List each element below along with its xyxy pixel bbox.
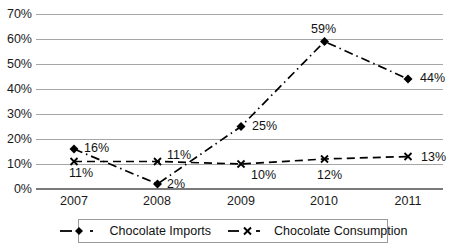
marker-diamond bbox=[70, 145, 79, 154]
chart-plot-area bbox=[0, 0, 461, 250]
data-label-imports-2011: 44% bbox=[420, 71, 445, 85]
chart-container: 70% 60% 50% 40% 30% 20% 10% 0% 2007 2008… bbox=[0, 0, 461, 250]
legend-item-chocolate-imports[interactable]: Chocolate Imports bbox=[59, 224, 211, 238]
legend-item-chocolate-consumption[interactable]: Chocolate Consumption bbox=[227, 224, 407, 238]
series-line-chocolate-imports bbox=[74, 42, 408, 185]
data-label-imports-2009: 25% bbox=[252, 119, 277, 133]
xcross-dash-key-icon bbox=[227, 224, 269, 238]
chart-legend: Chocolate Imports Chocolate Consumption bbox=[78, 219, 388, 243]
legend-label: Chocolate Consumption bbox=[274, 224, 407, 238]
data-label-consumption-2010: 12% bbox=[317, 168, 342, 182]
data-label-imports-2007: 16% bbox=[84, 141, 109, 155]
data-label-consumption-2008: 11% bbox=[167, 148, 191, 162]
data-label-consumption-2007: 11% bbox=[69, 166, 93, 180]
diamond-dashdot-key-icon bbox=[59, 224, 105, 238]
series-markers-chocolate-imports bbox=[70, 37, 413, 189]
marker-diamond bbox=[320, 37, 329, 46]
data-label-consumption-2009: 10% bbox=[251, 168, 276, 182]
series-markers-chocolate-consumption bbox=[71, 153, 412, 168]
data-label-consumption-2011: 13% bbox=[421, 150, 446, 164]
legend-label: Chocolate Imports bbox=[110, 224, 211, 238]
data-label-imports-2010: 59% bbox=[311, 22, 336, 36]
data-label-imports-2008: 2% bbox=[167, 177, 185, 191]
marker-diamond bbox=[404, 75, 413, 84]
